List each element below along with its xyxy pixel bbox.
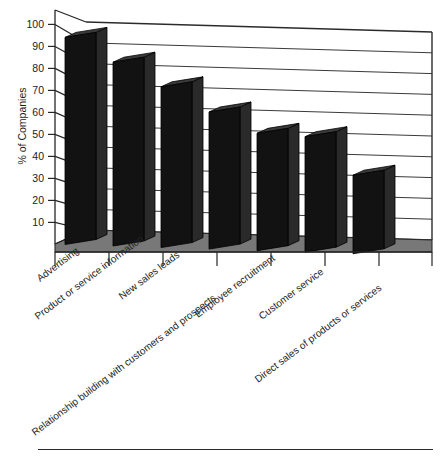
bar-chart-canvas: 100 90 80 70 60 50 40 30 20 10 % of Comp… — [0, 0, 446, 461]
bar-relationship-building[interactable] — [209, 102, 251, 249]
y-tick-label: 100 — [26, 18, 44, 30]
x-category-label: New sales leads — [117, 249, 182, 302]
y-tick-label: 40 — [32, 150, 44, 162]
bar-customer-service[interactable] — [305, 127, 347, 253]
y-tick-label: 50 — [32, 128, 44, 140]
y-tick-label: 10 — [32, 216, 44, 228]
bar-product-service-information[interactable] — [113, 52, 155, 246]
x-category-labels: Advertising Product or service informati… — [30, 233, 384, 438]
bar-employee-recruitment[interactable] — [257, 123, 299, 250]
y-tick-label: 20 — [32, 194, 44, 206]
y-tick-label: 60 — [32, 106, 44, 118]
bar-new-sales-leads[interactable] — [161, 77, 203, 248]
y-axis-title: % of Companies — [16, 87, 28, 164]
x-category-label: Customer service — [257, 266, 326, 322]
x-category-label: Direct sales of products or services — [253, 282, 384, 384]
chart-figure: 100 90 80 70 60 50 40 30 20 10 % of Comp… — [0, 0, 446, 461]
bar-advertising[interactable] — [65, 27, 107, 244]
y-tick-labels: 100 90 80 70 60 50 40 30 20 10 — [26, 18, 44, 228]
y-tick-label: 30 — [32, 172, 44, 184]
bar-direct-sales[interactable] — [353, 165, 395, 254]
y-axis-title-text: % of Companies — [16, 87, 28, 164]
x-category-label: Relationship building with customers and… — [30, 292, 218, 438]
y-tick-label: 80 — [32, 62, 44, 74]
y-tick-label: 70 — [32, 84, 44, 96]
y-tick-label: 90 — [32, 40, 44, 52]
footer-divider — [38, 449, 433, 450]
